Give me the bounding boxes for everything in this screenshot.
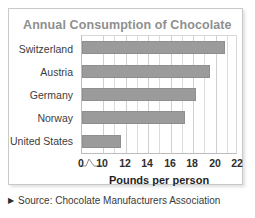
- source-note: ▶ Source: Chocolate Manufacturers Associ…: [8, 195, 220, 206]
- category-label: Austria: [9, 60, 77, 83]
- bar-row: [82, 106, 236, 129]
- bar-row: [82, 83, 236, 106]
- triangle-right-icon: ▶: [8, 197, 14, 205]
- bar-row: [82, 130, 236, 153]
- chocolate-consumption-figure: Annual Consumption of Chocolate Switzerl…: [0, 0, 255, 218]
- bar: [82, 65, 210, 78]
- bar: [82, 111, 185, 124]
- x-tick-label: 20: [209, 157, 221, 169]
- plot-wrapper: SwitzerlandAustriaGermanyNorwayUnited St…: [9, 35, 244, 186]
- x-axis-title: Pounds per person: [81, 174, 237, 186]
- category-label: United States: [9, 129, 77, 152]
- source-text: Source: Chocolate Manufacturers Associat…: [18, 195, 220, 206]
- bar: [82, 135, 121, 148]
- x-tick-label: 10: [96, 157, 108, 169]
- chart-title: Annual Consumption of Chocolate: [23, 18, 232, 32]
- x-tick-label: 16: [164, 157, 176, 169]
- plot-area: [81, 35, 237, 154]
- x-tick-label: 22: [231, 157, 243, 169]
- category-label: Germany: [9, 83, 77, 106]
- x-tick-label: 14: [141, 157, 153, 169]
- bar-series: [82, 36, 236, 153]
- category-label: Norway: [9, 106, 77, 129]
- x-tick-label: 18: [186, 157, 198, 169]
- category-axis-labels: SwitzerlandAustriaGermanyNorwayUnited St…: [9, 37, 77, 152]
- x-axis-tick-labels: 010121416182022: [81, 157, 237, 171]
- chart-container: Annual Consumption of Chocolate Switzerl…: [8, 8, 243, 185]
- category-label: Switzerland: [9, 37, 77, 60]
- bar-row: [82, 36, 236, 59]
- x-tick-label: 0: [78, 157, 84, 169]
- x-tick-label: 12: [119, 157, 131, 169]
- bar: [82, 41, 225, 54]
- bar-row: [82, 59, 236, 82]
- bar: [82, 88, 196, 101]
